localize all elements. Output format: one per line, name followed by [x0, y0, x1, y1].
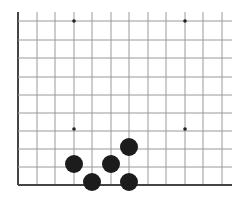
- board-grid: [18, 12, 232, 185]
- star-point-icon: [72, 127, 76, 131]
- black-stone[interactable]: [120, 138, 138, 156]
- go-board[interactable]: [0, 0, 247, 200]
- black-stone[interactable]: [120, 173, 138, 191]
- star-point-icon: [183, 127, 187, 131]
- star-point-icon: [183, 19, 187, 23]
- black-stone[interactable]: [83, 173, 101, 191]
- black-stone[interactable]: [102, 155, 120, 173]
- star-point-icon: [72, 19, 76, 23]
- black-stone[interactable]: [65, 155, 83, 173]
- stones: [65, 138, 138, 191]
